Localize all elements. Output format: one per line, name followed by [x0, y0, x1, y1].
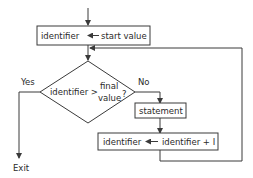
no-to-statement-arrow [135, 92, 160, 103]
decision-diamond: identifier > final value ? [40, 61, 135, 123]
statement-box: statement [135, 103, 186, 118]
decision-question-mark: ? [122, 89, 127, 99]
decision-final-label: final [100, 81, 118, 91]
statement-label: statement [139, 106, 183, 116]
init-box: identifier start value [37, 26, 150, 45]
yes-exit-arrow [19, 92, 40, 158]
no-label: No [138, 77, 150, 87]
init-start-value-label: start value [101, 31, 147, 41]
increment-identifier-label: identifier [103, 137, 142, 147]
exit-label: Exit [13, 163, 30, 173]
decision-identifier-label: identifier > [50, 87, 98, 97]
increment-box: identifier identifier + I [98, 133, 218, 150]
increment-expression-label: identifier + I [162, 137, 215, 147]
init-identifier-label: identifier [41, 31, 80, 41]
flowchart-diagram: identifier start value identifier > fina… [0, 0, 253, 178]
yes-label: Yes [20, 77, 35, 87]
decision-value-label: value [98, 93, 121, 103]
